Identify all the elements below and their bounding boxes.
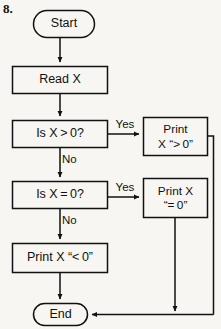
node-print-lt-label: Print X “< 0”	[12, 243, 108, 273]
node-decision-eq-label: Is X = 0?	[12, 181, 108, 209]
node-print-gt-line2: X “> 0”	[158, 137, 193, 151]
node-print-eq-label: Print X “= 0”	[143, 178, 208, 218]
node-decision-gt-label: Is X > 0?	[12, 120, 108, 148]
node-print-eq-line2: “= 0”	[164, 198, 188, 212]
edge-label-gt-yes: Yes	[110, 118, 140, 130]
flowchart-page: 8.	[0, 0, 221, 329]
node-print-gt-label: Print X “> 0”	[143, 117, 208, 156]
edge-label-eq-no: No	[62, 214, 86, 226]
node-print-gt-line1: Print	[163, 122, 187, 136]
edge-label-eq-yes: Yes	[110, 181, 140, 193]
edge-print-gt-return	[208, 136, 214, 315]
node-read-label: Read X	[12, 66, 108, 94]
node-start-label: Start	[33, 10, 95, 38]
flowchart-canvas: Print --> Is X=0 --> Print --> Print X "…	[0, 0, 221, 329]
node-print-eq-line1: Print X	[158, 184, 193, 198]
node-end-label: End	[33, 303, 88, 326]
edge-label-gt-no: No	[62, 153, 86, 165]
